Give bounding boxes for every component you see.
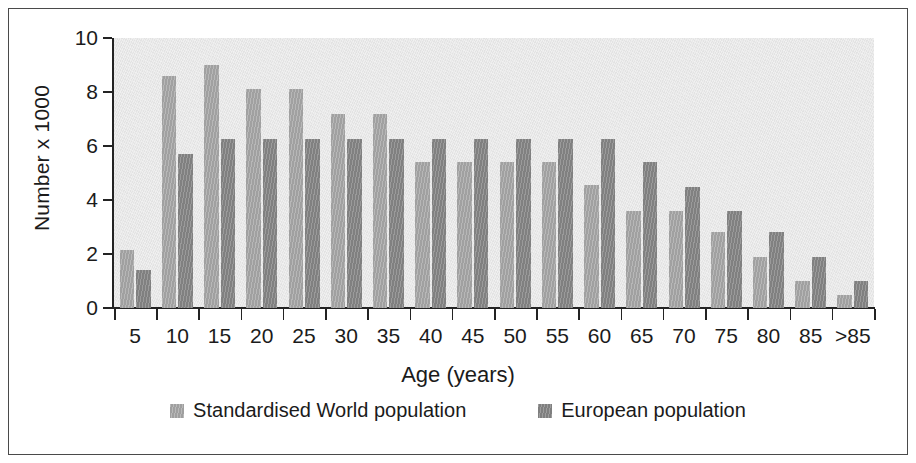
y-axis-tick-label: 2 xyxy=(58,243,98,264)
bar xyxy=(162,76,177,308)
x-axis-tick xyxy=(367,309,369,320)
bar xyxy=(136,270,151,308)
figure-canvas: Number x 1000 0246810 510152025303540455… xyxy=(0,0,916,463)
y-axis-tick xyxy=(103,145,112,147)
y-axis-tick-label: 6 xyxy=(58,135,98,156)
x-axis-tick xyxy=(325,309,327,320)
y-axis-tick xyxy=(103,91,112,93)
bar xyxy=(432,139,447,308)
bar xyxy=(389,139,404,308)
bar xyxy=(542,162,557,308)
x-axis-tick-label: >85 xyxy=(818,325,888,346)
bar xyxy=(415,162,430,308)
y-axis-tick xyxy=(103,307,112,309)
bar xyxy=(204,65,219,308)
x-axis-title: Age (years) xyxy=(0,362,916,388)
bar xyxy=(120,250,135,308)
x-axis-tick xyxy=(874,309,876,320)
y-axis-tick xyxy=(103,37,112,39)
bar xyxy=(221,139,236,308)
x-axis-tick xyxy=(283,309,285,320)
bar xyxy=(837,295,852,309)
bar xyxy=(769,232,784,308)
legend-item: European population xyxy=(538,399,746,422)
x-axis-tick xyxy=(410,309,412,320)
bar xyxy=(289,89,304,308)
bar xyxy=(601,139,616,308)
legend-label: Standardised World population xyxy=(193,399,466,422)
bar xyxy=(373,114,388,308)
bar xyxy=(474,139,489,308)
bar xyxy=(500,162,515,308)
chart-legend: Standardised World populationEuropean po… xyxy=(0,399,916,422)
x-axis-tick xyxy=(494,309,496,320)
bar xyxy=(178,154,193,308)
legend-item: Standardised World population xyxy=(170,399,466,422)
y-axis-tick-label: 10 xyxy=(58,27,98,48)
bar xyxy=(246,89,261,308)
x-axis-tick xyxy=(198,309,200,320)
legend-swatch-icon xyxy=(538,404,552,418)
bar xyxy=(263,139,278,308)
bar xyxy=(331,114,346,308)
legend-swatch-icon xyxy=(170,404,184,418)
y-axis-tick-label: 4 xyxy=(58,189,98,210)
x-axis-tick xyxy=(790,309,792,320)
x-axis-tick xyxy=(705,309,707,320)
legend-label: European population xyxy=(561,399,746,422)
bar xyxy=(626,211,641,308)
bar xyxy=(643,162,658,308)
bar xyxy=(795,281,810,308)
x-axis-tick xyxy=(621,309,623,320)
bar xyxy=(457,162,472,308)
y-axis-title: Number x 1000 xyxy=(30,43,54,273)
x-axis-tick xyxy=(114,309,116,320)
x-axis-tick xyxy=(156,309,158,320)
y-axis-tick xyxy=(103,253,112,255)
x-axis-tick xyxy=(663,309,665,320)
x-axis-tick xyxy=(452,309,454,320)
x-axis-tick xyxy=(536,309,538,320)
x-axis-tick xyxy=(241,309,243,320)
y-axis-tick-label: 0 xyxy=(58,297,98,318)
bar xyxy=(516,139,531,308)
y-axis-tick-label: 8 xyxy=(58,81,98,102)
bar xyxy=(685,187,700,309)
bar xyxy=(347,139,362,308)
bar xyxy=(711,232,726,308)
bar xyxy=(727,211,742,308)
bar xyxy=(558,139,573,308)
y-axis-tick xyxy=(103,199,112,201)
bar xyxy=(669,211,684,308)
bar xyxy=(305,139,320,308)
bar xyxy=(812,257,827,308)
x-axis-tick xyxy=(578,309,580,320)
bar xyxy=(753,257,768,308)
x-axis-tick xyxy=(747,309,749,320)
bar xyxy=(854,281,869,308)
x-axis-tick xyxy=(832,309,834,320)
bar xyxy=(584,185,599,308)
y-axis-line xyxy=(112,38,114,309)
